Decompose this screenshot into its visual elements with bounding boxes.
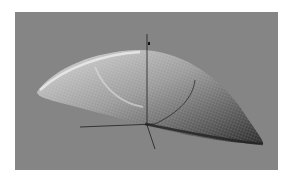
y-axis: [147, 125, 155, 149]
x-axis: [80, 124, 155, 127]
render-viewport: [15, 12, 278, 170]
axis-marker: [148, 42, 150, 45]
wireframe-surface-render: [15, 12, 278, 170]
